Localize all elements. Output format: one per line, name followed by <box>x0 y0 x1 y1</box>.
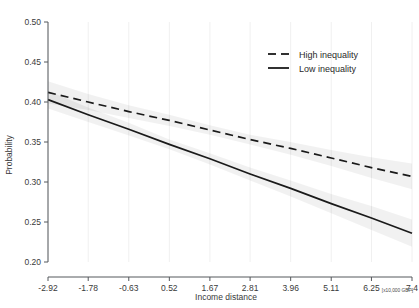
chart-figure: 0.500.450.400.350.300.250.20 -2.92-1.78-… <box>0 0 419 308</box>
x-tick-label-8: 6.25 <box>363 283 380 293</box>
y-tick-label-3: 0.35 <box>24 137 41 147</box>
y-axis-title: Probability <box>4 134 14 174</box>
x-tick-label-7: 5.11 <box>323 283 339 293</box>
y-tick-label-4: 0.30 <box>24 177 41 187</box>
legend-label-high-inequality: High inequality <box>299 50 359 60</box>
x-tick-label-2: -0.63 <box>119 283 139 293</box>
x-tick-label-3: 0.52 <box>161 283 178 293</box>
y-tick-label-2: 0.40 <box>24 97 41 107</box>
line-chart: 0.500.450.400.350.300.250.20 -2.92-1.78-… <box>0 0 419 308</box>
x-axis-unit-note: [x10,000 GBP] <box>382 288 413 293</box>
y-tick-label-1: 0.45 <box>24 57 41 67</box>
legend-label-low-inequality: Low inequality <box>299 64 357 74</box>
y-tick-label-5: 0.25 <box>24 217 41 227</box>
y-tick-label-6: 0.20 <box>24 257 41 267</box>
x-tick-label-6: 3.96 <box>282 283 299 293</box>
x-axis-title: Income distance <box>195 292 257 302</box>
x-tick-label-1: -1.78 <box>79 283 99 293</box>
y-tick-label-0: 0.50 <box>24 17 41 27</box>
x-tick-label-0: -2.92 <box>38 283 58 293</box>
